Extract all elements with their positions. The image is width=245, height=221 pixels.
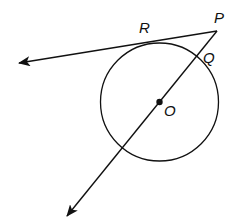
- label-o: O: [164, 103, 176, 118]
- label-q: Q: [203, 50, 215, 65]
- secant-ray-po: [67, 31, 217, 216]
- center-point-o: [156, 99, 162, 105]
- tangent-ray-pr: [19, 31, 217, 63]
- diagram-svg: [0, 0, 245, 221]
- label-p: P: [214, 10, 224, 25]
- label-r: R: [139, 20, 150, 35]
- geometry-diagram: R P Q O: [0, 0, 245, 221]
